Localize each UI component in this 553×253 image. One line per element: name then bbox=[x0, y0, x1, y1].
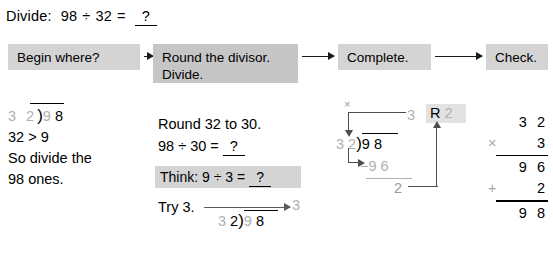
col2-estimate-blank: ? bbox=[223, 138, 245, 156]
difference-to-remainder-arrow-stem bbox=[436, 128, 437, 187]
check-rule bbox=[496, 155, 548, 156]
title-dividend: 98 bbox=[61, 8, 78, 24]
col1-explanation-line2: 98 ones. bbox=[8, 169, 148, 190]
col3-subtraction-row: −9 6 bbox=[360, 158, 389, 174]
column-complete: × 3 R 2 3 2)9 8 −9 6 2 bbox=[318, 96, 468, 206]
flow-step-round-divide[interactable]: Round the divisor. Divide. bbox=[153, 44, 298, 83]
col2-long-division: 3 2)9 8 bbox=[218, 213, 264, 229]
col2-dividend-ones: 8 bbox=[256, 213, 264, 229]
think-divisor: 3 bbox=[225, 169, 233, 185]
answer-blank: ? bbox=[135, 8, 157, 26]
col2-estimate-dividend: 98 bbox=[158, 138, 174, 154]
col2-divisor-tens: 3 bbox=[218, 213, 226, 229]
col3-product-ones: 6 bbox=[381, 158, 389, 174]
col1-dividend-tens: 9 bbox=[43, 108, 51, 124]
col3-divisor-tens: 3 bbox=[336, 136, 344, 152]
column-check: 3 2 ×3 9 6 +2 9 8 bbox=[486, 112, 548, 224]
problem-statement: Divide:98÷32=? bbox=[6, 8, 157, 24]
col2-estimate-equation: 98 ÷ 30 =? bbox=[158, 135, 318, 157]
col1-explanation-line1: So divide the bbox=[8, 148, 148, 169]
col2-divisor-ones: 2 bbox=[230, 213, 238, 229]
flow-step-begin-where[interactable]: Begin where? bbox=[8, 44, 140, 70]
col3-quotient: 3 bbox=[407, 107, 415, 123]
quotient-to-divisor-arrow-shaft bbox=[348, 112, 406, 113]
quotient-to-divisor-arrow-stem bbox=[348, 112, 349, 132]
col1-comparison: 32 > 9 bbox=[8, 127, 148, 148]
check-value: 9 6 bbox=[519, 159, 548, 175]
flow-arrow-icon bbox=[144, 52, 153, 61]
col3-divisor-ones: 2 bbox=[348, 136, 356, 152]
col2-estimate-operator: ÷ bbox=[178, 138, 186, 154]
col3-long-division: 3 2)9 8 bbox=[336, 136, 382, 152]
multiply-operator-icon: × bbox=[488, 133, 496, 154]
divide-label: Divide: bbox=[6, 8, 52, 24]
col2-dividend-tens: 9 bbox=[244, 213, 252, 229]
check-row: ×3 bbox=[486, 133, 548, 154]
col1-long-division: 3 2)9 8 bbox=[8, 106, 148, 127]
check-value: 3 bbox=[537, 135, 548, 151]
think-equals: = bbox=[237, 169, 245, 185]
check-row: 3 2 bbox=[486, 112, 548, 133]
col1-divisor: 3 2 bbox=[8, 108, 37, 124]
remainder-label: R bbox=[430, 105, 440, 121]
check-value: 2 bbox=[537, 180, 548, 196]
division-operator-icon: ÷ bbox=[82, 8, 90, 24]
col2-estimate-equals: = bbox=[210, 138, 218, 154]
col3-dividend-ones: 8 bbox=[374, 136, 382, 152]
col2-try-label: Try 3. bbox=[158, 199, 195, 215]
subtraction-rule bbox=[366, 178, 412, 179]
vinculum-bar bbox=[244, 210, 278, 211]
vinculum-bar bbox=[30, 103, 64, 104]
col2-round-instruction: Round 32 to 30. bbox=[158, 113, 318, 135]
col3-remainder-group: R 2 bbox=[430, 105, 453, 121]
check-value: 3 2 bbox=[519, 114, 548, 130]
col3-difference: 2 bbox=[394, 180, 402, 196]
col3-product-tens: 9 bbox=[368, 158, 376, 174]
think-dividend: 9 bbox=[202, 169, 210, 185]
think-operator: ÷ bbox=[214, 169, 222, 185]
col2-estimate-divisor: 30 bbox=[190, 138, 206, 154]
flow-step-complete[interactable]: Complete. bbox=[338, 44, 431, 70]
check-row: 9 8 bbox=[486, 203, 548, 224]
flow-step-check[interactable]: Check. bbox=[486, 44, 548, 70]
check-row: +2 bbox=[486, 178, 548, 199]
think-blank: ? bbox=[249, 169, 271, 187]
equals-sign: = bbox=[117, 8, 126, 24]
vinculum-bar bbox=[362, 133, 398, 134]
check-row: 9 6 bbox=[486, 157, 548, 178]
check-rule bbox=[496, 200, 548, 201]
remainder-value: 2 bbox=[445, 105, 453, 121]
column-begin-where: 3 2)9 8 32 > 9 So divide the 98 ones. bbox=[8, 106, 148, 190]
check-value: 9 8 bbox=[519, 205, 548, 221]
multiply-mark-icon: × bbox=[344, 98, 350, 110]
col2-try-quotient: 3 bbox=[292, 197, 300, 213]
divisor-to-product-arrow-stem bbox=[348, 148, 349, 163]
plus-operator-icon: + bbox=[488, 178, 496, 199]
title-divisor: 32 bbox=[95, 8, 112, 24]
col2-think-equation: Think: 9 ÷ 3 =? bbox=[160, 169, 271, 185]
column-round-divide: Round 32 to 30. 98 ÷ 30 =? bbox=[158, 113, 318, 157]
difference-to-remainder-arrow-head-icon bbox=[433, 121, 441, 128]
col1-dividend-ones: 8 bbox=[55, 108, 63, 124]
think-label: Think: bbox=[160, 169, 198, 185]
difference-to-remainder-arrow-shaft bbox=[408, 186, 438, 187]
col3-dividend-tens: 9 bbox=[362, 136, 370, 152]
flow-arrow-icon bbox=[435, 52, 482, 61]
flow-arrow-icon bbox=[302, 52, 334, 61]
